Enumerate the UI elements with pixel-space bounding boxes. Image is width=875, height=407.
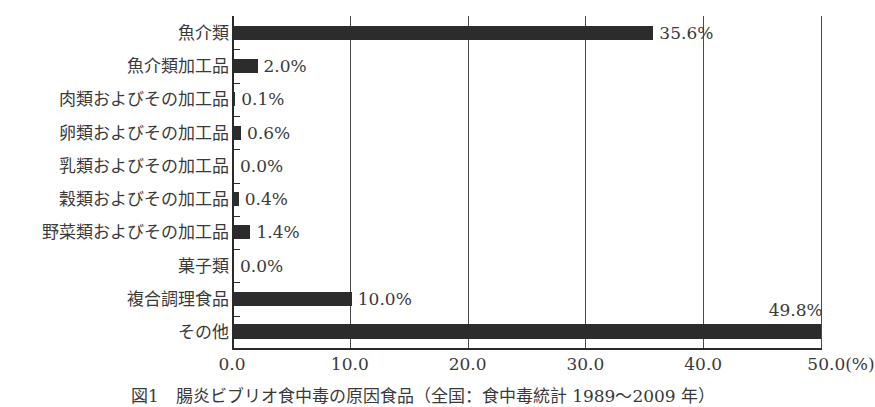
x-tick-label: 20.0 — [449, 354, 487, 374]
bar — [234, 225, 250, 239]
chart-caption: 図1 腸炎ビブリオ食中毒の原因食品（全国：食中毒統計 1989～2009 年） — [0, 382, 846, 407]
y-tick — [234, 183, 240, 184]
bar — [234, 324, 821, 339]
category-label: 卵類およびその加工品 — [59, 123, 229, 143]
category-label: 菓子類 — [178, 256, 229, 276]
value-label: 49.8% — [769, 300, 823, 320]
x-tick-label: 30.0 — [566, 354, 604, 374]
category-label: 肉類およびその加工品 — [59, 89, 229, 109]
value-label: 0.6% — [247, 123, 290, 143]
gridline — [703, 16, 704, 349]
value-label: 35.6% — [659, 23, 713, 43]
value-label: 0.4% — [245, 189, 288, 209]
bar — [234, 192, 239, 206]
category-label: 複合調理食品 — [127, 289, 229, 309]
bar — [234, 26, 653, 40]
y-tick — [234, 149, 240, 150]
bar — [234, 292, 352, 306]
bar — [234, 126, 241, 140]
x-tick-label: 40.0 — [684, 354, 722, 374]
category-label: 穀類およびその加工品 — [59, 189, 229, 209]
y-tick — [234, 216, 240, 217]
y-tick — [234, 116, 240, 117]
bar — [234, 59, 258, 73]
value-label: 10.0% — [358, 289, 412, 309]
x-tick-label: 10.0 — [331, 354, 369, 374]
y-tick — [234, 83, 240, 84]
gridline — [468, 16, 469, 349]
value-label: 1.4% — [256, 222, 299, 242]
y-tick — [234, 49, 240, 50]
category-label: 魚介類 — [178, 23, 229, 43]
gridline — [585, 16, 586, 349]
y-tick — [234, 316, 240, 317]
value-label: 2.0% — [264, 56, 307, 76]
value-label: 0.1% — [241, 89, 284, 109]
value-label: 0.0% — [240, 156, 283, 176]
value-label: 0.0% — [240, 256, 283, 276]
y-tick — [234, 282, 240, 283]
x-tick-label: 50.0(%) — [807, 354, 874, 374]
category-label: 魚介類加工品 — [127, 56, 229, 76]
y-tick — [234, 249, 240, 250]
bar — [234, 92, 235, 106]
category-label: 乳類およびその加工品 — [59, 156, 229, 176]
gridline — [821, 16, 822, 349]
category-label: その他 — [178, 322, 229, 342]
category-label: 野菜類およびその加工品 — [42, 222, 229, 242]
x-tick-label: 0.0 — [218, 354, 245, 374]
x-axis — [232, 348, 822, 350]
